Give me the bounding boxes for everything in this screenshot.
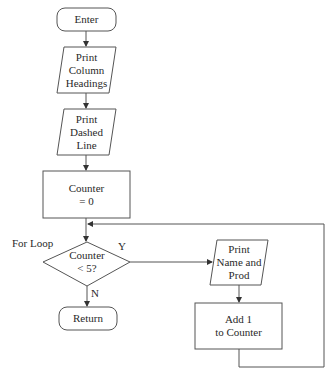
print-dashed-line2: Dashed (57, 126, 116, 139)
add-one-label: Add 1 to Counter (195, 313, 282, 339)
print-name-line2: Name and (210, 256, 268, 269)
return-label: Return (59, 312, 117, 325)
counter-init-line1: Counter (43, 182, 130, 195)
for-loop-label: For Loop (12, 237, 53, 250)
print-headings-label: Print Column Headings (57, 51, 116, 90)
print-headings-line3: Headings (57, 77, 116, 90)
print-dashed-label: Print Dashed Line (57, 113, 116, 152)
print-headings-line1: Print (57, 51, 116, 64)
yes-label: Y (118, 240, 126, 253)
print-name-line3: Prod (210, 269, 268, 282)
print-name-label: Print Name and Prod (210, 243, 268, 282)
decision-line2: < 5? (43, 262, 131, 275)
add-one-line2: to Counter (195, 326, 282, 339)
counter-init-line2: = 0 (43, 195, 130, 208)
print-dashed-line3: Line (57, 139, 116, 152)
add-one-line1: Add 1 (195, 313, 282, 326)
print-name-line1: Print (210, 243, 268, 256)
no-label: N (91, 287, 99, 300)
return-text: Return (73, 312, 103, 324)
enter-text: Enter (75, 13, 99, 25)
counter-init-label: Counter = 0 (43, 182, 130, 208)
print-headings-line2: Column (57, 64, 116, 77)
enter-label: Enter (57, 13, 116, 26)
print-dashed-line1: Print (57, 113, 116, 126)
